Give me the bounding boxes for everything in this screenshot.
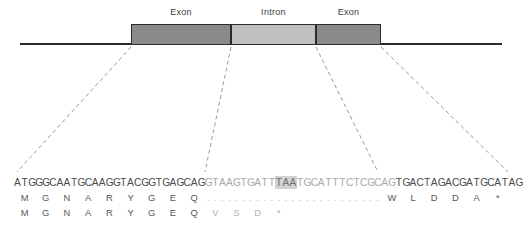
nucleotide: T xyxy=(325,176,332,189)
nucleotide: T xyxy=(240,176,247,189)
nucleotide: T xyxy=(268,176,275,189)
feature-label-exon-1: Exon xyxy=(131,7,231,17)
nucleotide: T xyxy=(395,176,402,189)
nucleotide: T xyxy=(339,176,346,189)
nucleotide: T xyxy=(332,176,339,189)
nucleotide: A xyxy=(92,176,99,189)
nucleotide: T xyxy=(424,176,431,189)
nucleotide: T xyxy=(297,176,304,189)
alignment-gap: . xyxy=(219,191,226,204)
nucleotide: A xyxy=(219,176,226,189)
nucleotide: C xyxy=(346,176,353,189)
sequence-alignment: ATGGGCAATGCAAGGTACGGTGAGCAGGTAAGTGATTTAA… xyxy=(14,176,510,219)
amino-acid: M xyxy=(14,206,35,219)
amino-acid: N xyxy=(56,191,77,204)
amino-acid: A xyxy=(78,206,99,219)
nucleotide: A xyxy=(226,176,233,189)
nucleotide: G xyxy=(367,176,374,189)
nucleotide: G xyxy=(198,176,205,189)
alignment-gap: . xyxy=(268,191,275,204)
nucleotide: G xyxy=(35,176,42,189)
spliced-protein-row: MGNARYGEQ.........................WLDDA* xyxy=(14,191,510,204)
nucleotide: G xyxy=(515,176,522,189)
alignment-gap: . xyxy=(297,191,304,204)
alignment-gap: . xyxy=(318,191,325,204)
amino-acid-altered: D xyxy=(247,206,268,219)
feature-box-exon-1 xyxy=(131,24,231,45)
amino-acid: M xyxy=(14,191,35,204)
nucleotide: G xyxy=(480,176,487,189)
connector-intron-end xyxy=(316,47,378,172)
nucleotide: C xyxy=(311,176,318,189)
nucleotide: C xyxy=(85,176,92,189)
nucleotide: G xyxy=(304,176,311,189)
gene-structure-diagram: ExonIntronExon xyxy=(0,0,522,56)
feature-label-intron-1: Intron xyxy=(231,7,316,17)
amino-acid: A xyxy=(78,191,99,204)
amino-acid: Y xyxy=(120,206,141,219)
amino-acid: R xyxy=(99,191,120,204)
alignment-gap: . xyxy=(240,191,247,204)
alignment-gap: . xyxy=(360,191,367,204)
amino-acid: * xyxy=(487,191,508,204)
amino-acid: G xyxy=(35,206,56,219)
nucleotide: C xyxy=(49,176,56,189)
nucleotide: C xyxy=(417,176,424,189)
amino-acid-altered: V xyxy=(205,206,226,219)
nucleotide: T xyxy=(21,176,28,189)
feature-box-intron-1 xyxy=(231,24,316,45)
amino-acid: Q xyxy=(184,206,205,219)
alignment-gap: . xyxy=(282,191,289,204)
nucleotide: A xyxy=(282,176,289,189)
alignment-gap: . xyxy=(254,191,261,204)
amino-acid: E xyxy=(162,206,183,219)
nucleotide: G xyxy=(42,176,49,189)
nucleotide: A xyxy=(56,176,63,189)
nucleotide: G xyxy=(78,176,85,189)
nucleotide: T xyxy=(212,176,219,189)
nucleotide: G xyxy=(28,176,35,189)
nucleotide: G xyxy=(141,176,148,189)
alignment-gap: . xyxy=(311,191,318,204)
feature-box-exon-2 xyxy=(316,24,381,45)
nucleotide: T xyxy=(353,176,360,189)
alignment-gap: . xyxy=(332,191,339,204)
amino-acid: E xyxy=(162,191,183,204)
alignment-gap: . xyxy=(233,191,240,204)
nucleotide: G xyxy=(459,176,466,189)
nucleotide: A xyxy=(254,176,261,189)
nucleotide: G xyxy=(205,176,212,189)
nucleotide: C xyxy=(452,176,459,189)
nucleotide: T xyxy=(71,176,78,189)
nucleotide: G xyxy=(162,176,169,189)
amino-acid: A xyxy=(466,191,487,204)
alignment-gap: . xyxy=(325,191,332,204)
nucleotide: C xyxy=(374,176,381,189)
nucleotide: A xyxy=(381,176,388,189)
alignment-gap: . xyxy=(304,191,311,204)
alignment-gap: . xyxy=(289,191,296,204)
nucleotide: G xyxy=(402,176,409,189)
nucleotide: C xyxy=(184,176,191,189)
alignment-gap: . xyxy=(212,191,219,204)
nucleotide: T xyxy=(120,176,127,189)
amino-acid: G xyxy=(141,191,162,204)
nucleotide: A xyxy=(410,176,417,189)
nucleotide: A xyxy=(289,176,296,189)
alignment-gap: . xyxy=(247,191,254,204)
nucleotide: C xyxy=(134,176,141,189)
feature-label-exon-2: Exon xyxy=(316,7,381,17)
nucleotide: G xyxy=(176,176,183,189)
nucleotide: A xyxy=(466,176,473,189)
connector-exon2-end xyxy=(381,47,508,172)
alignment-gap: . xyxy=(353,191,360,204)
intron-retained-protein-row: MGNARYGEQVSD* xyxy=(14,206,510,219)
alignment-gap: . xyxy=(261,191,268,204)
amino-acid-altered: S xyxy=(226,206,247,219)
nucleotide: A xyxy=(494,176,501,189)
nucleotide: G xyxy=(106,176,113,189)
alignment-gap: . xyxy=(346,191,353,204)
alignment-gap: . xyxy=(226,191,233,204)
nucleotide: T xyxy=(261,176,268,189)
